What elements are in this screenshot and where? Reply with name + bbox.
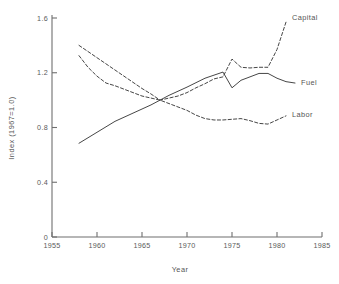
series-curve-fuel [79,72,295,143]
y-axis-title: Index (1967=1.0) [7,96,16,159]
y-tick-label: 1.2 [37,68,48,77]
series-curve-labor [79,56,286,124]
x-tick-group: 1955196019651970197519801985 [43,232,330,250]
x-tick-label: 1980 [268,241,285,250]
y-tick-group: 00.40.81.21.6 [37,14,57,242]
x-tick-label: 1965 [133,241,150,250]
series-label-capital: Capital [292,13,318,22]
x-tick-label: 1955 [43,241,60,250]
x-tick-label: 1960 [88,241,105,250]
x-tick-label: 1985 [313,241,330,250]
y-tick-label: 1.6 [37,14,48,23]
x-axis-title: Year [172,265,189,274]
axes-group [52,15,322,237]
line-chart-figure: 00.40.81.21.6 19551960196519701975198019… [0,0,339,284]
y-tick-label: 0.8 [37,123,48,132]
y-tick-label: 0.4 [37,178,48,187]
x-tick-label: 1970 [178,241,195,250]
x-tick-label: 1975 [223,241,240,250]
series-curves-group [79,22,295,143]
series-label-labor: Labor [292,110,313,119]
series-label-fuel: Fuel [301,78,317,87]
series-label-group: CapitalFuelLabor [292,13,318,119]
series-curve-capital [79,22,286,100]
chart-svg: 00.40.81.21.6 19551960196519701975198019… [0,0,339,284]
